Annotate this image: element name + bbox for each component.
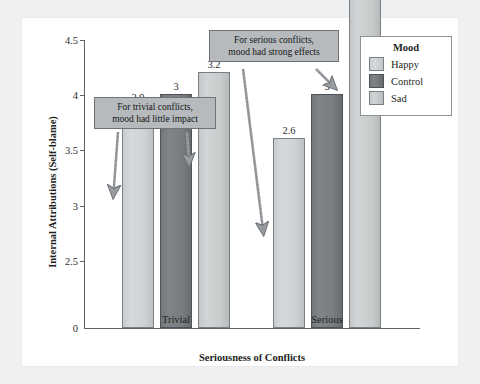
tick-mark (80, 206, 84, 207)
bar-value-label: 3 (173, 81, 178, 92)
legend-item-control[interactable]: Control (369, 74, 445, 88)
legend-item-happy[interactable]: Happy (369, 57, 445, 71)
y-tick-label: 3.5 (65, 145, 78, 156)
legend-label-happy: Happy (391, 59, 419, 70)
y-tick-label: 3 (73, 200, 78, 211)
group-label-serious: Serious (311, 314, 343, 325)
annotation-trivial: For trivial conflicts, mood had little i… (94, 97, 216, 129)
legend-item-sad[interactable]: Sad (369, 91, 445, 105)
y-tick-label: 4 (73, 90, 78, 101)
legend: Mood Happy Control Sad (360, 36, 452, 116)
legend-title: Mood (367, 42, 445, 53)
legend-label-control: Control (391, 76, 423, 87)
y-tick-label: 4.5 (65, 35, 78, 46)
y-axis-line (84, 40, 85, 328)
legend-swatch-control-icon (369, 74, 384, 88)
bar-value-label: 2.6 (282, 125, 295, 136)
bar-serious-control[interactable]: 3 (311, 94, 343, 328)
tick-mark (80, 261, 84, 262)
bar-value-label: 3 (324, 81, 329, 92)
y-axis-title: Internal Attributions (Self-blame) (47, 116, 58, 268)
bar-trivial-happy[interactable]: 2.9 (122, 105, 154, 328)
bar-serious-happy[interactable]: 2.6 (273, 138, 305, 328)
tick-mark (80, 40, 84, 41)
group-label-trivial: Trivial (162, 314, 190, 325)
tick-mark (80, 150, 84, 151)
figure-root: Internal Attributions (Self-blame) 4.5 4… (0, 0, 480, 384)
legend-swatch-sad-icon (369, 91, 384, 105)
legend-swatch-happy-icon (369, 57, 384, 71)
legend-label-sad: Sad (391, 93, 407, 104)
annotation-serious: For serious conflicts, mood had strong e… (209, 30, 339, 62)
x-axis-line (84, 328, 420, 329)
y-tick-label: 2.5 (65, 255, 78, 266)
y-tick-label: 0 (73, 323, 78, 334)
x-axis-title: Seriousness of Conflicts (84, 352, 420, 363)
tick-mark (80, 95, 84, 96)
